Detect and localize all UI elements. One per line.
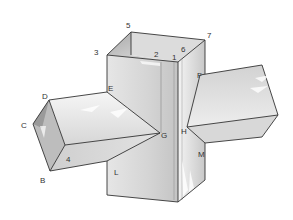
label-L: L (114, 168, 119, 177)
label-D: D (42, 92, 48, 101)
label-B: B (40, 176, 45, 185)
label-7: 7 (207, 31, 212, 40)
label-M: M (198, 150, 205, 159)
label-2: 2 (154, 50, 159, 59)
label-4: 4 (66, 155, 71, 164)
label-6: 6 (181, 45, 186, 54)
label-3: 3 (94, 48, 99, 57)
label-F: F (197, 71, 202, 80)
label-1: 1 (172, 53, 177, 62)
label-C: C (21, 121, 27, 130)
label-G: G (161, 131, 167, 140)
label-E: E (108, 84, 113, 93)
duct-intersection-diagram: 5 7 3 2 1 6 D C B E G 4 L F H M (0, 0, 293, 220)
label-H: H (181, 127, 187, 136)
label-5: 5 (126, 21, 131, 30)
